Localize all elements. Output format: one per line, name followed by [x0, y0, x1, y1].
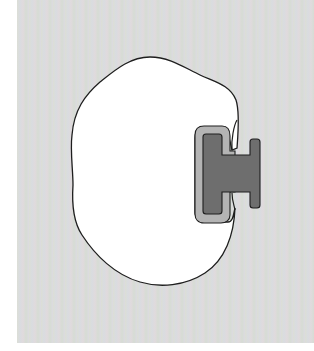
lower-notch-lip [232, 193, 235, 210]
diagram-canvas [0, 0, 314, 351]
